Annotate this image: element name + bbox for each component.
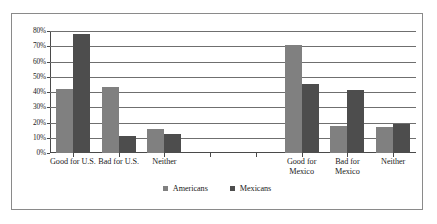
x-axis-label	[233, 157, 279, 176]
y-axis-tick-label: 10%	[16, 134, 46, 141]
bar-mexicans	[302, 84, 319, 153]
bar-mexicans	[347, 90, 364, 153]
category-group	[325, 31, 371, 153]
category-group	[233, 31, 279, 153]
x-axis-label: Bad for U.S.	[96, 157, 142, 176]
category-group	[279, 31, 325, 153]
y-axis-tick-label: 40%	[16, 88, 46, 95]
legend-entry: Americans	[163, 184, 208, 193]
legend-label: Mexicans	[240, 184, 271, 193]
category-group	[50, 31, 96, 153]
bar-americans	[330, 126, 347, 153]
bar-americans	[285, 45, 302, 153]
y-axis-tick-label: 50%	[16, 73, 46, 80]
x-axis-label: Good for U.S.	[50, 157, 96, 176]
bar-americans	[102, 87, 119, 153]
chart-frame: 80%70%60%50%40%30%20%10%0% Good for U.S.…	[11, 13, 423, 210]
bar-americans	[376, 127, 393, 153]
x-axis-label: Good for Mexico	[279, 157, 325, 176]
legend-swatch-icon	[230, 186, 235, 191]
bar-mexicans	[164, 134, 181, 153]
legend-label: Americans	[173, 184, 208, 193]
x-axis-label: Bad for Mexico	[325, 157, 371, 176]
plot-area	[50, 31, 416, 153]
x-axis-category-labels: Good for U.S.Bad for U.S.NeitherGood for…	[50, 157, 416, 176]
chart-plot-wrapper: 80%70%60%50%40%30%20%10%0% Good for U.S.…	[12, 14, 422, 209]
bar-mexicans	[73, 34, 90, 153]
x-axis-label	[187, 157, 233, 176]
y-axis-tick-labels: 80%70%60%50%40%30%20%10%0%	[16, 31, 46, 153]
y-axis-tick-label: 30%	[16, 104, 46, 111]
legend-swatch-icon	[163, 186, 168, 191]
bar-americans	[147, 129, 164, 153]
x-axis-label: Neither	[142, 157, 188, 176]
category-group	[142, 31, 188, 153]
category-group	[187, 31, 233, 153]
category-group	[96, 31, 142, 153]
legend-entry: Mexicans	[230, 184, 271, 193]
bar-americans	[56, 89, 73, 153]
y-axis-tick-label: 80%	[16, 27, 46, 34]
bar-mexicans	[119, 136, 136, 153]
bars-layer	[50, 31, 416, 153]
y-axis-tick-label: 70%	[16, 43, 46, 50]
y-axis-tickmark	[47, 153, 50, 154]
bar-mexicans	[393, 124, 410, 153]
y-axis-tick-label: 20%	[16, 119, 46, 126]
y-axis-tick-label: 60%	[16, 58, 46, 65]
category-group	[370, 31, 416, 153]
x-axis-label: Neither	[370, 157, 416, 176]
y-axis-tick-label: 0%	[16, 149, 46, 156]
chart-legend: AmericansMexicans	[12, 184, 422, 193]
